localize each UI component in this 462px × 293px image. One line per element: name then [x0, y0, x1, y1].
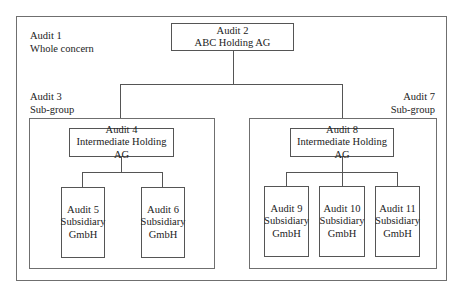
node-audit-6-form: GmbH: [149, 229, 178, 242]
node-audit-6-type: Subsidiary: [141, 216, 186, 229]
node-audit-8-title: Audit 8: [326, 124, 358, 137]
subgroup-right-label: Audit 7 Sub-group: [391, 91, 435, 116]
node-audit-2: Audit 2 ABC Holding AG: [171, 23, 294, 51]
node-audit-5: Audit 5 Subsidiary GmbH: [61, 187, 105, 258]
node-audit-4: Audit 4 Intermediate Holding AG: [69, 128, 174, 157]
connector-audit-4-horizontal: [82, 172, 163, 173]
node-audit-8: Audit 8 Intermediate Holding AG: [290, 128, 394, 157]
node-audit-4-title: Audit 4: [106, 124, 138, 137]
node-audit-10-title: Audit 10: [323, 203, 360, 216]
node-audit-5-type: Subsidiary: [61, 216, 106, 229]
connector-audit-4-down: [121, 157, 122, 172]
audit-1-subtitle: Whole concern: [30, 43, 94, 56]
audit-1-title: Audit 1: [30, 30, 94, 43]
audit-7-subtitle: Sub-group: [391, 104, 435, 117]
node-audit-9: Audit 9 Subsidiary GmbH: [264, 186, 309, 257]
audit-3-title: Audit 3: [30, 91, 74, 104]
connector-top-horizontal: [120, 84, 343, 85]
node-audit-11-title: Audit 11: [379, 203, 416, 216]
whole-concern-label: Audit 1 Whole concern: [30, 30, 94, 55]
node-audit-10-form: GmbH: [328, 228, 357, 241]
connector-to-audit-11: [397, 172, 398, 186]
node-audit-9-title: Audit 9: [271, 203, 303, 216]
node-audit-6: Audit 6 Subsidiary GmbH: [141, 187, 185, 258]
node-audit-2-title: Audit 2: [217, 25, 249, 38]
node-audit-5-form: GmbH: [69, 229, 98, 242]
connector-top-down: [233, 51, 234, 84]
node-audit-2-entity: ABC Holding AG: [195, 37, 271, 50]
connector-to-audit-10: [342, 172, 343, 186]
node-audit-10-type: Subsidiary: [320, 215, 365, 228]
connector-to-audit-5: [82, 172, 83, 187]
connector-to-audit-9: [286, 172, 287, 186]
connector-to-audit-6: [162, 172, 163, 187]
connector-to-subgroup-right: [342, 84, 343, 118]
node-audit-11-type: Subsidiary: [375, 215, 420, 228]
audit-3-subtitle: Sub-group: [30, 104, 74, 117]
connector-to-subgroup-left: [120, 84, 121, 118]
node-audit-11-form: GmbH: [383, 228, 412, 241]
node-audit-9-form: GmbH: [272, 228, 301, 241]
node-audit-10: Audit 10 Subsidiary GmbH: [319, 186, 365, 257]
node-audit-11: Audit 11 Subsidiary GmbH: [375, 186, 420, 257]
subgroup-left-label: Audit 3 Sub-group: [30, 91, 74, 116]
node-audit-5-title: Audit 5: [67, 204, 99, 217]
node-audit-6-title: Audit 6: [147, 204, 179, 217]
node-audit-9-type: Subsidiary: [264, 215, 309, 228]
connector-audit-8-down: [342, 157, 343, 172]
audit-7-title: Audit 7: [391, 91, 435, 104]
